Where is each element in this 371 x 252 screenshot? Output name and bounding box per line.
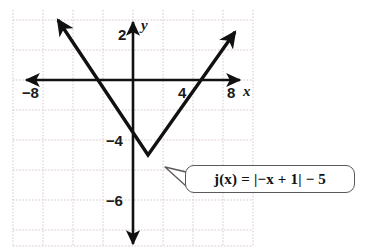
absolute-value-curve [58,20,235,155]
x-axis-label: x [243,83,251,100]
graph-figure: −8 4 8 x 2 −4 −6 y j(x) = |−x + 1| − 5 [0,0,371,252]
x-tick-label-4: 4 [178,84,186,101]
x-tick-label-neg8: −8 [22,84,39,101]
equation-callout-text: j(x) = |−x + 1| − 5 [214,171,326,188]
y-tick-label-2: 2 [118,26,126,43]
y-tick-label-neg4: −4 [106,132,123,149]
y-axis-label: y [141,17,148,34]
equation-callout: j(x) = |−x + 1| − 5 [185,165,355,193]
coordinate-plane-svg [0,0,371,252]
y-tick-label-neg6: −6 [106,192,123,209]
x-tick-label-8: 8 [227,84,235,101]
